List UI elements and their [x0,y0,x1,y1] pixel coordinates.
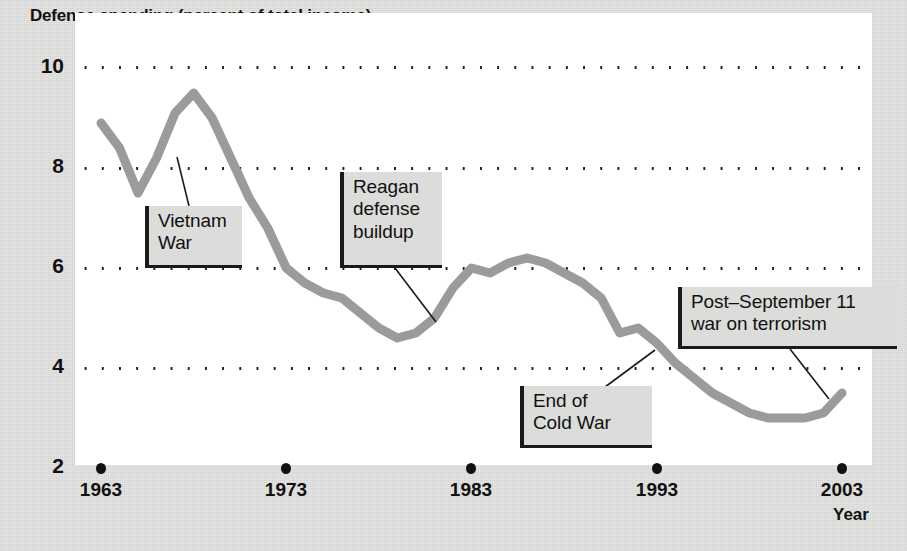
x-axis-tick-1983: 1983 [431,479,511,501]
x-axis-tick-1973: 1973 [246,479,326,501]
gridline-10 [75,66,872,69]
x-axis-tick-2003: 2003 [802,479,882,501]
x-axis-tick-dot-1973 [281,463,291,474]
y-axis-tick-2: 2 [20,454,64,478]
y-axis-tick-10: 10 [20,54,64,78]
annotation-post-september-11-war-on-terrorism: Post–September 11 war on terrorism [678,287,897,349]
x-axis-tick-1963: 1963 [61,479,141,501]
gridline-4 [75,367,872,370]
x-axis-tick-dot-1963 [96,463,106,474]
annotation-reagan-defense-buildup: Reagan defense buildup [340,172,442,268]
gridline-8 [75,167,872,170]
x-axis-title: Year [833,505,869,525]
y-axis-tick-6: 6 [20,254,64,278]
y-axis-tick-4: 4 [20,354,64,378]
x-axis-tick-dot-1983 [466,463,476,474]
annotation-end-of-cold-war: End of Cold War [520,386,652,448]
x-axis-tick-1993: 1993 [617,479,697,501]
x-axis-tick-dot-2003 [837,463,847,474]
y-axis-tick-8: 8 [20,154,64,178]
annotation-vietnam-war: Vietnam War [145,206,242,268]
x-axis-tick-dot-1993 [652,463,662,474]
